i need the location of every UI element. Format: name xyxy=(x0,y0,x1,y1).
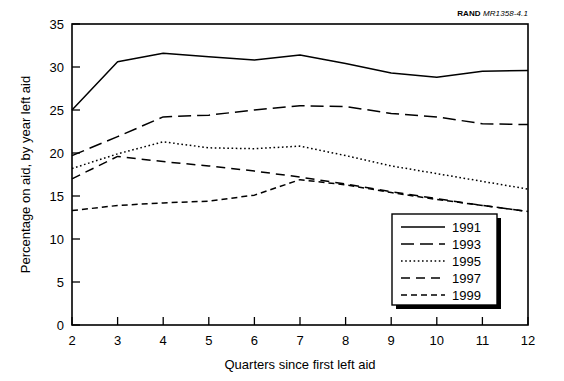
y-tick-label: 10 xyxy=(50,232,64,247)
legend-label-1993: 1993 xyxy=(452,237,481,252)
x-tick-label: 8 xyxy=(342,333,349,348)
data-series-group xyxy=(72,53,528,211)
x-tick-label: 10 xyxy=(430,333,444,348)
line-chart: 05101520253035 23456789101112 Quarters s… xyxy=(0,0,564,381)
x-axis-ticks: 23456789101112 xyxy=(68,317,535,348)
x-tick-label: 4 xyxy=(160,333,167,348)
y-tick-label: 30 xyxy=(50,60,64,75)
x-tick-label: 11 xyxy=(476,333,490,348)
source-credit: RAND MR1358-4.1 xyxy=(457,9,528,18)
legend-label-1995: 1995 xyxy=(452,254,481,269)
rand-logo-text: RAND xyxy=(457,9,481,18)
x-axis-title: Quarters since first left aid xyxy=(225,357,376,372)
x-tick-label: 6 xyxy=(251,333,258,348)
legend-label-1997: 1997 xyxy=(452,271,481,286)
y-tick-label: 0 xyxy=(57,318,64,333)
x-tick-label: 9 xyxy=(388,333,395,348)
y-tick-label: 25 xyxy=(50,103,64,118)
figure-container: RAND MR1358-4.1 05101520253035 234567891… xyxy=(0,0,564,381)
y-tick-label: 35 xyxy=(50,17,64,32)
series-line-1999 xyxy=(72,180,528,212)
y-axis-title: Percentage on aid, by year left aid xyxy=(18,76,33,273)
series-line-1991 xyxy=(72,53,528,110)
y-tick-label: 5 xyxy=(57,275,64,290)
x-tick-label: 7 xyxy=(296,333,303,348)
x-tick-label: 5 xyxy=(205,333,212,348)
chart-legend: 19911993199519971999 xyxy=(392,214,501,309)
y-axis-ticks: 05101520253035 xyxy=(50,17,80,333)
document-id: MR1358-4.1 xyxy=(483,9,528,18)
legend-label-1991: 1991 xyxy=(452,220,481,235)
y-tick-label: 15 xyxy=(50,189,64,204)
x-tick-label: 2 xyxy=(68,333,75,348)
series-line-1997 xyxy=(72,156,528,211)
series-line-1995 xyxy=(72,142,528,189)
legend-label-1999: 1999 xyxy=(452,288,481,303)
x-tick-label: 12 xyxy=(521,333,535,348)
x-tick-label: 3 xyxy=(114,333,121,348)
y-tick-label: 20 xyxy=(50,146,64,161)
